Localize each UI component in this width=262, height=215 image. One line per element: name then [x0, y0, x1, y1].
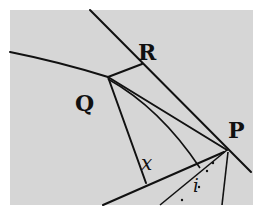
dot — [181, 199, 183, 201]
angle-label-x: x — [141, 151, 152, 175]
label-Q: Q — [75, 90, 94, 116]
geometry-diagram: R Q P x i — [0, 0, 262, 215]
label-P: P — [228, 117, 245, 143]
angle-label-i: i — [193, 175, 199, 196]
dot — [212, 162, 214, 164]
diagram-background — [10, 10, 253, 205]
label-R: R — [138, 39, 157, 65]
dot — [206, 170, 208, 172]
